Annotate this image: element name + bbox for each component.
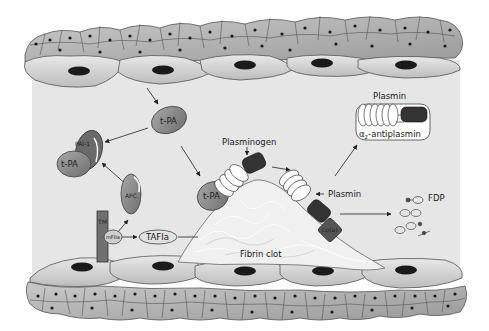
apc-label: APC xyxy=(125,192,137,199)
tafia-label: TAFIa xyxy=(145,232,169,242)
lpa-label: Lp(a) xyxy=(322,226,338,234)
plasmin-top-label: Plasmin xyxy=(373,91,406,101)
antiplasmin-label: α2-antiplasmin xyxy=(359,129,421,140)
tpa-free-label: t-PA xyxy=(160,116,177,126)
tm-label: TM xyxy=(97,218,107,225)
fdp-label: FDP xyxy=(428,193,445,203)
tafia: TAFIa xyxy=(139,230,177,244)
fibrinolysis-diagram: Fibrin clot t-PA PAI-1 t-PA APC TM xyxy=(0,0,489,331)
fibrin-clot-label: Fibrin clot xyxy=(240,249,282,259)
tpa-bound-pai-label: t-PA xyxy=(61,159,78,169)
apc: APC xyxy=(121,174,141,214)
plasmin-mid-label: Plasmin xyxy=(328,189,361,199)
thrombin: mFIIa xyxy=(104,230,122,244)
tpa-on-clot-label: t-PA xyxy=(203,191,220,201)
thrombin-label: mFIIa xyxy=(106,234,120,240)
pai1-label: PAI-1 xyxy=(75,140,90,147)
plasminogen-label: Plasminogen xyxy=(222,137,276,147)
